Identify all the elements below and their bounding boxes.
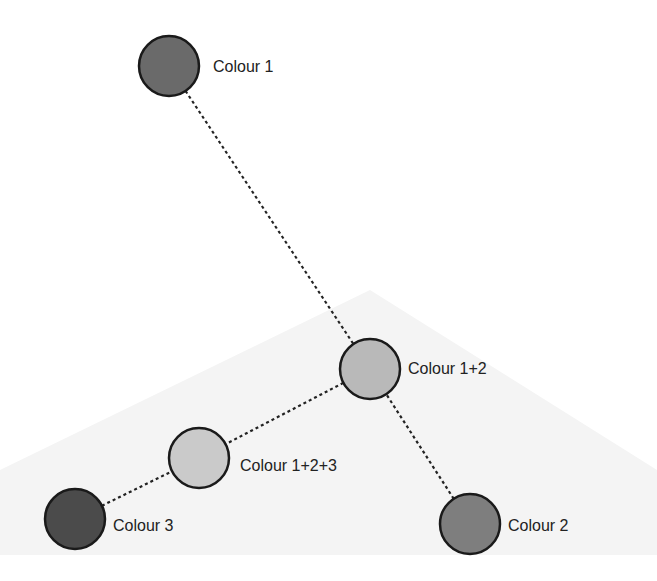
label-colour-1: Colour 1 xyxy=(213,57,273,77)
node-c2 xyxy=(440,494,500,554)
node-c3 xyxy=(45,489,105,549)
node-c1 xyxy=(139,36,199,96)
node-c123 xyxy=(169,428,229,488)
label-colour-3: Colour 3 xyxy=(113,516,173,536)
node-c12 xyxy=(340,339,400,399)
colour-mixing-diagram xyxy=(0,0,657,581)
label-colour-1-2: Colour 1+2 xyxy=(408,359,487,379)
label-colour-2: Colour 2 xyxy=(508,516,568,536)
label-colour-1-2-3: Colour 1+2+3 xyxy=(240,456,337,476)
